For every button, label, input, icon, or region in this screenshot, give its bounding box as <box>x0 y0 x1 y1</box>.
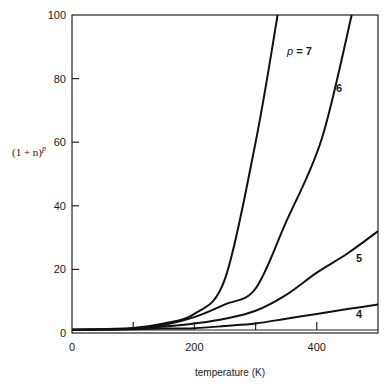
x-axis-ticks: 0200400 <box>69 322 326 353</box>
x-tick-label: 400 <box>308 341 326 353</box>
y-tick-label: 0 <box>60 327 66 339</box>
x-tick-label: 0 <box>69 341 75 353</box>
y-tick-label: 60 <box>54 136 66 148</box>
y-axis-ticks: 020406080100 <box>48 9 79 339</box>
x-axis-label: temperature (K) <box>195 367 265 378</box>
curve-p6 <box>72 15 352 330</box>
y-tick-label: 20 <box>54 263 66 275</box>
curves <box>72 15 378 330</box>
y-axis-label-exponent: p <box>41 144 46 153</box>
curve-labels: p = 7654 <box>286 45 363 320</box>
y-tick-label: 100 <box>48 9 66 21</box>
curve-label-p4: 4 <box>356 308 363 320</box>
y-axis-label: (1 + n)p <box>12 144 46 159</box>
y-axis-label-base: (1 + n) <box>12 146 42 159</box>
plot-frame <box>72 15 378 333</box>
curve-p4 <box>72 304 378 329</box>
curve-label-p5: 5 <box>356 252 362 264</box>
curve-p7 <box>72 15 278 330</box>
y-tick-label: 80 <box>54 73 66 85</box>
chart: 020406080100 0200400 p = 7654 temperatur… <box>0 0 392 389</box>
curve-label-p6: 6 <box>336 82 342 94</box>
y-tick-label: 40 <box>54 200 66 212</box>
curve-label-p7: p = 7 <box>286 45 312 57</box>
x-tick-label: 200 <box>185 341 203 353</box>
